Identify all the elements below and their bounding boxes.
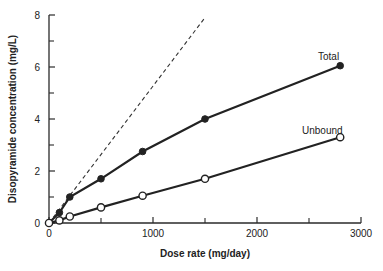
y-tick-label: 2 xyxy=(34,166,40,177)
y-axis-title: Disopyramide concentration (mg/L) xyxy=(7,35,18,203)
open-circle-marker xyxy=(56,217,63,224)
x-axis-title: Dose rate (mg/day) xyxy=(160,248,250,259)
dashed-reference-line xyxy=(49,18,205,223)
filled-circle-marker xyxy=(139,148,146,155)
series-group xyxy=(45,62,343,226)
filled-circle-marker xyxy=(56,209,63,216)
series-label-total: Total xyxy=(318,51,339,62)
filled-circle-marker xyxy=(98,176,105,183)
y-tick-label: 0 xyxy=(34,218,40,229)
chart: 024680100020003000 Total Unbound Dose ra… xyxy=(0,0,383,271)
open-circle-marker xyxy=(201,175,208,182)
x-tick-label: 0 xyxy=(46,228,52,239)
x-tick-label: 1000 xyxy=(142,228,165,239)
dashed-line xyxy=(49,18,205,223)
line-chart: 024680100020003000 Total Unbound Dose ra… xyxy=(0,0,383,271)
series-line xyxy=(49,66,340,223)
series-total xyxy=(46,62,344,226)
series-label-unbound: Unbound xyxy=(302,125,343,136)
y-tick-label: 4 xyxy=(34,114,40,125)
series-line xyxy=(49,137,340,223)
open-circle-marker xyxy=(45,219,52,226)
y-tick-label: 8 xyxy=(34,10,40,21)
filled-circle-marker xyxy=(67,194,74,201)
filled-circle-marker xyxy=(337,62,344,69)
series-unbound xyxy=(45,134,343,227)
open-circle-marker xyxy=(139,192,146,199)
open-circle-marker xyxy=(66,213,73,220)
x-tick-label: 2000 xyxy=(246,228,269,239)
x-tick-label: 3000 xyxy=(350,228,373,239)
open-circle-marker xyxy=(97,204,104,211)
filled-circle-marker xyxy=(202,116,209,123)
y-tick-label: 6 xyxy=(34,62,40,73)
